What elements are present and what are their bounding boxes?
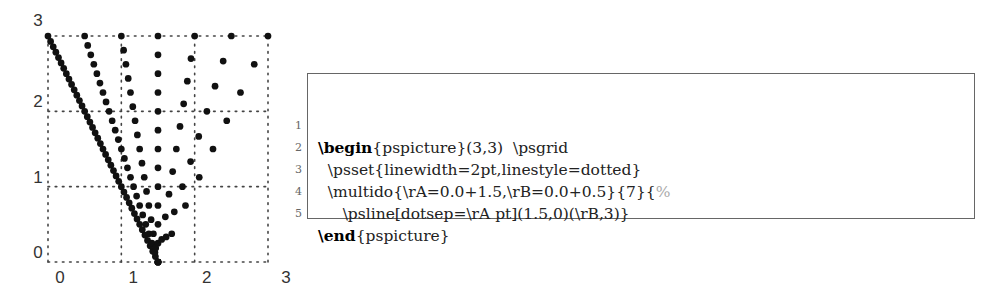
svg-text:3: 3: [281, 268, 290, 287]
line-number: 3: [290, 159, 302, 181]
code-text: \multido{\rA=0.0+1.5,\rB=0.0+0.5}{7}{: [328, 183, 656, 201]
svg-text:3: 3: [33, 11, 42, 30]
code-line-4: 4 \psline[dotsep=\rA pt](1.5,0)(\rB,3)}: [308, 159, 328, 181]
code-keyword: \end: [318, 226, 356, 245]
axis-tick-labels: 01230123: [33, 11, 290, 287]
line-number: 1: [290, 115, 302, 137]
svg-text:1: 1: [33, 168, 42, 187]
svg-text:0: 0: [55, 268, 64, 287]
line-number: 4: [290, 181, 302, 203]
code-text: \psline[dotsep=\rA pt](1.5,0)(\rB,3)}: [343, 205, 630, 223]
svg-text:2: 2: [33, 92, 42, 111]
code-listing: 1 \begin{pspicture}(3,3) \psgrid 2 \psse…: [307, 73, 975, 219]
code-line-5: 5 \end{pspicture}: [308, 181, 328, 203]
svg-text:0: 0: [33, 243, 42, 262]
dotted-lines: [45, 33, 272, 266]
code-line-1: 1 \begin{pspicture}(3,3) \psgrid: [308, 93, 328, 115]
svg-text:1: 1: [129, 268, 138, 287]
code-text: {pspicture}(3,3) \psgrid: [372, 139, 568, 157]
code-comment: %: [656, 183, 671, 201]
svg-text:2: 2: [202, 268, 211, 287]
code-line-2: 2 \psset{linewidth=2pt,linestyle=dotted}: [308, 115, 328, 137]
code-text: {pspicture}: [356, 227, 450, 245]
code-text: \psset{linewidth=2pt,linestyle=dotted}: [328, 161, 641, 179]
line-number: 2: [290, 137, 302, 159]
pspicture-plot: 01230123: [0, 0, 300, 289]
code-line-3: 3 \multido{\rA=0.0+1.5,\rB=0.0+0.5}{7}{%: [308, 137, 328, 159]
line-number: 5: [290, 203, 302, 225]
